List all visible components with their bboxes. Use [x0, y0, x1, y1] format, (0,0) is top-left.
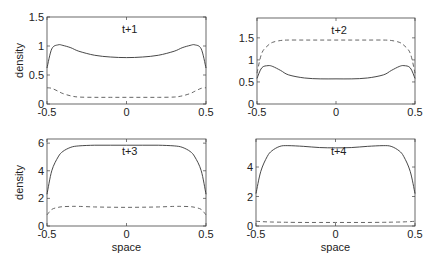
x-tick-label: 0.5	[407, 228, 422, 240]
x-tick-label: 0.5	[198, 228, 213, 240]
x-tick-label: 0	[332, 228, 338, 240]
x-tick-label: 0	[123, 228, 129, 240]
panel-title: t+2	[331, 24, 347, 36]
y-tick-label: 0	[38, 98, 44, 110]
subplot-t2: -0.500.500.511.5t+2	[239, 18, 423, 118]
dashed-series-line	[47, 88, 206, 98]
y-tick-label: 1	[38, 40, 44, 52]
solid-series-line	[47, 45, 206, 68]
subplot-t3: -0.500.50246t+3densityspace	[13, 137, 214, 253]
y-tick-label: 6	[38, 137, 44, 149]
x-tick-label: 0	[333, 106, 339, 118]
y-tick-label: 0	[248, 98, 254, 110]
x-tick-label: 0.5	[407, 106, 422, 118]
y-tick-label: 0.5	[239, 76, 254, 88]
x-axis-label: space	[321, 241, 350, 253]
y-tick-label: 1	[248, 54, 254, 66]
panel-title: t+1	[122, 23, 138, 35]
x-tick-label: 0.5	[198, 106, 213, 118]
subplot-t4: -0.500.5024t+4space	[247, 139, 423, 253]
y-axis-label: density	[13, 43, 25, 78]
y-tick-label: 0	[38, 220, 44, 232]
y-tick-label: 0	[247, 220, 253, 232]
solid-series-line	[257, 66, 415, 79]
y-tick-label: 2	[247, 191, 253, 203]
y-tick-label: 1.5	[239, 32, 254, 44]
subplot-t1: -0.500.500.511.5t+1density	[13, 11, 214, 118]
panel-title: t+3	[122, 145, 138, 157]
y-tick-label: 1.5	[29, 11, 44, 23]
y-tick-label: 2	[38, 192, 44, 204]
dashed-series-line	[256, 221, 415, 222]
y-tick-label: 0.5	[29, 69, 44, 81]
figure: -0.500.500.511.5t+1density -0.500.500.51…	[0, 0, 438, 264]
y-tick-label: 4	[247, 161, 253, 173]
dashed-series-line	[47, 206, 206, 215]
y-tick-label: 4	[38, 165, 44, 177]
dashed-series-line	[257, 40, 415, 73]
panel-title: t+4	[331, 145, 347, 157]
x-axis-label: space	[112, 241, 141, 253]
y-axis-label: density	[13, 165, 25, 200]
x-tick-label: 0	[123, 106, 129, 118]
